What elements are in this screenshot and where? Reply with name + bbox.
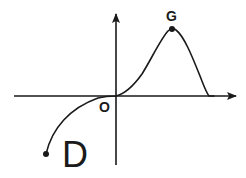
start-point: [43, 151, 49, 157]
label-g: G: [166, 8, 177, 24]
label-region-d: D: [62, 134, 88, 175]
function-graph: G O D: [0, 0, 246, 178]
label-origin: O: [99, 99, 110, 115]
peak-point-g: [169, 26, 175, 32]
